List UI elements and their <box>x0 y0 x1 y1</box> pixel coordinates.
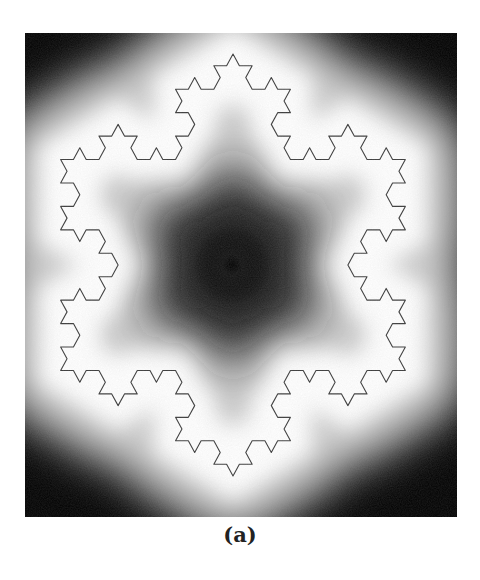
koch-snowflake-distance-field <box>25 33 457 517</box>
figure-caption: (a) <box>0 522 480 547</box>
